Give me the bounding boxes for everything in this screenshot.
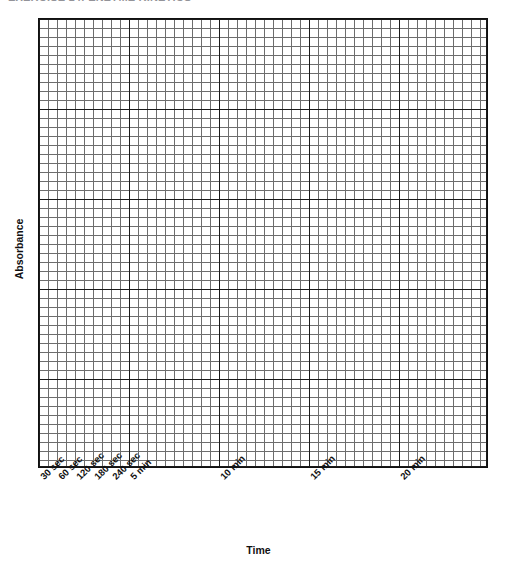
- x-axis-title: Time: [0, 544, 517, 556]
- graph-paper-grid: [38, 18, 488, 468]
- y-axis-title: Absorbance: [13, 204, 25, 294]
- chart-plot-area: [38, 18, 488, 468]
- worksheet-title: EXERCISE 14: ENZYME KINETICS: [8, 0, 191, 3]
